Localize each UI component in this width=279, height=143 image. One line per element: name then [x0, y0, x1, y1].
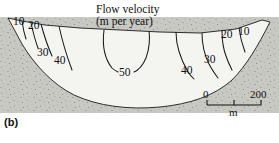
scale-label-min: 0: [203, 88, 209, 100]
scale-label-max: 200: [250, 88, 267, 100]
scale-label-unit: m: [229, 106, 238, 118]
contour-label-50-center: 50: [119, 66, 131, 78]
figure-graphic: 10 20 30 40 50 40 30 20 10 Flow velocity…: [0, 0, 279, 143]
contour-label-40-left: 40: [54, 54, 66, 66]
glacier-cross-section-figure: 10 20 30 40 50 40 30 20 10 Flow velocity…: [0, 0, 279, 143]
contour-label-20-left: 20: [28, 19, 40, 31]
figure-title: Flow velocity (m per year): [96, 3, 160, 28]
panel-label: (b): [4, 116, 18, 128]
contour-label-40-right: 40: [181, 64, 193, 76]
contour-label-30-right: 30: [204, 53, 216, 65]
title-line-2: (m per year): [96, 15, 153, 28]
contour-label-30-left: 30: [37, 46, 49, 58]
contour-label-10-right: 10: [238, 25, 250, 37]
contour-label-10-left: 10: [13, 15, 25, 27]
contour-label-20-right: 20: [221, 28, 233, 40]
